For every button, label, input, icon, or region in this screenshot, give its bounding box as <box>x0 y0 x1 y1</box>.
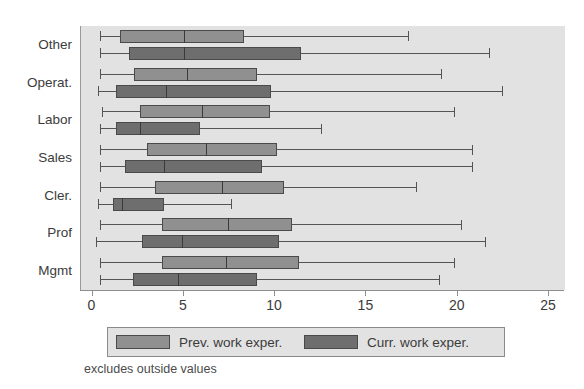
whisker-high-cap <box>485 237 486 247</box>
whisker-high-line <box>244 36 408 37</box>
whisker-low-line <box>102 111 140 112</box>
median-line <box>140 122 141 135</box>
whisker-low-line <box>100 36 120 37</box>
whisker-high-cap <box>454 258 455 268</box>
whisker-low-line <box>100 187 155 188</box>
whisker-low-cap <box>100 31 101 41</box>
legend-entry-curr: Curr. work exper. <box>304 333 469 351</box>
whisker-high-cap <box>441 69 442 79</box>
box-iqr <box>142 235 279 248</box>
whisker-high-cap <box>439 275 440 285</box>
whisker-low-cap <box>100 162 101 172</box>
whisker-low-line <box>100 128 116 129</box>
whisker-low-cap <box>100 145 101 155</box>
whisker-high-line <box>270 111 454 112</box>
whisker-low-line <box>100 279 133 280</box>
box-iqr <box>113 198 164 211</box>
box-iqr <box>133 273 257 286</box>
x-tick-10 <box>274 290 275 296</box>
whisker-low-cap <box>98 86 99 96</box>
whisker-low-cap <box>100 124 101 134</box>
box-iqr <box>129 47 301 60</box>
median-line <box>166 85 167 98</box>
whisker-high-line <box>284 187 415 188</box>
whisker-high-cap <box>416 182 417 192</box>
x-tick-label-15: 15 <box>345 297 385 313</box>
whisker-high-line <box>257 279 440 280</box>
legend-swatch-prev <box>116 335 170 349</box>
category-label-cler: Cler. <box>0 189 72 203</box>
x-tick-label-20: 20 <box>437 297 477 313</box>
whisker-low-line <box>100 149 147 150</box>
whisker-high-cap <box>408 31 409 41</box>
whisker-high-cap <box>454 107 455 117</box>
x-tick-label-25: 25 <box>528 297 568 313</box>
category-label-labor: Labor <box>0 113 72 127</box>
whisker-high-line <box>262 166 472 167</box>
whisker-low-line <box>100 74 135 75</box>
whisker-low-cap <box>96 237 97 247</box>
whisker-low-line <box>98 91 116 92</box>
x-tick-5 <box>183 290 184 296</box>
box-iqr <box>147 143 277 156</box>
category-label-prof: Prof <box>0 226 72 240</box>
whisker-high-line <box>164 204 232 205</box>
median-line <box>182 235 183 248</box>
whisker-low-line <box>100 262 162 263</box>
legend-swatch-curr <box>304 335 358 349</box>
category-label-operat: Operat. <box>0 76 72 90</box>
x-tick-25 <box>548 290 549 296</box>
whisker-high-line <box>277 149 472 150</box>
median-line <box>184 47 185 60</box>
median-line <box>184 30 185 43</box>
whisker-high-cap <box>461 220 462 230</box>
median-line <box>202 105 203 118</box>
plot-area <box>80 26 565 290</box>
whisker-high-cap <box>472 145 473 155</box>
chart-note: excludes outside values <box>84 362 217 376</box>
whisker-low-line <box>100 166 126 167</box>
box-iqr <box>120 30 244 43</box>
legend-entry-prev: Prev. work exper. <box>116 333 282 351</box>
box-iqr <box>162 256 299 269</box>
legend-label-curr: Curr. work exper. <box>367 335 469 350</box>
whisker-high-cap <box>472 162 473 172</box>
whisker-high-line <box>200 128 321 129</box>
whisker-high-line <box>292 224 462 225</box>
whisker-high-line <box>271 91 501 92</box>
box-iqr <box>125 160 262 173</box>
whisker-low-cap <box>98 199 99 209</box>
median-line <box>122 198 123 211</box>
x-tick-15 <box>365 290 366 296</box>
whisker-high-cap <box>489 48 490 58</box>
median-line <box>206 143 207 156</box>
boxplot-chart: OtherOperat.LaborSalesCler.ProfMgmt 0510… <box>0 0 584 389</box>
category-axis-labels: OtherOperat.LaborSalesCler.ProfMgmt <box>0 26 76 290</box>
category-label-other: Other <box>0 38 72 52</box>
whisker-low-line <box>100 53 129 54</box>
x-tick-label-5: 5 <box>163 297 203 313</box>
whisker-low-line <box>100 224 162 225</box>
whisker-high-line <box>257 74 441 75</box>
box-iqr <box>140 105 270 118</box>
box-iqr <box>116 85 271 98</box>
median-line <box>222 181 223 194</box>
median-line <box>164 160 165 173</box>
median-line <box>187 68 188 81</box>
legend-label-prev: Prev. work exper. <box>179 335 282 350</box>
whisker-low-cap <box>100 275 101 285</box>
whisker-low-cap <box>102 107 103 117</box>
whisker-high-cap <box>502 86 503 96</box>
x-tick-label-0: 0 <box>72 297 112 313</box>
category-label-sales: Sales <box>0 151 72 165</box>
box-iqr <box>134 68 256 81</box>
whisker-high-line <box>299 262 454 263</box>
whisker-high-line <box>301 53 489 54</box>
x-tick-label-10: 10 <box>254 297 294 313</box>
whisker-low-cap <box>100 182 101 192</box>
x-axis-line <box>80 290 564 291</box>
whisker-high-cap <box>231 199 232 209</box>
chart-legend: Prev. work exper.Curr. work exper. <box>107 327 505 357</box>
x-tick-20 <box>457 290 458 296</box>
x-tick-0 <box>92 290 93 296</box>
